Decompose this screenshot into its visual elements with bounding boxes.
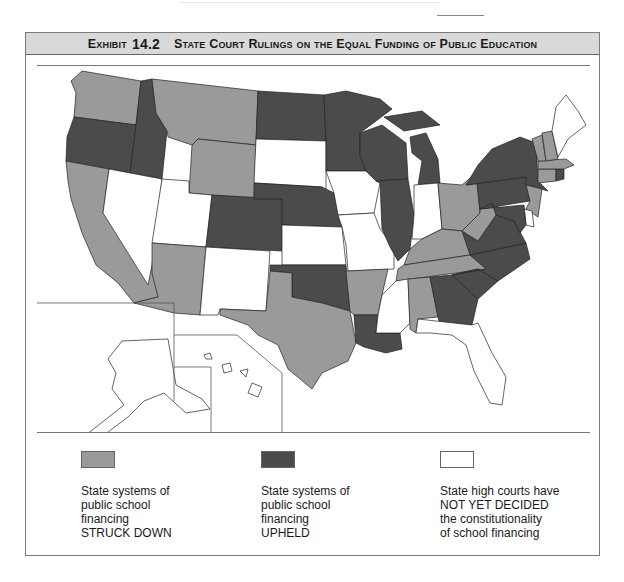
legend-text: of school financing	[440, 526, 610, 540]
legend-item-upheld: State systems of public school financing…	[261, 451, 431, 540]
hawaii-inset-border	[174, 335, 282, 433]
state-ct	[538, 169, 556, 183]
us-map	[26, 33, 601, 433]
state-ak	[86, 339, 210, 433]
state-wy	[189, 139, 256, 199]
state-mt	[152, 79, 258, 145]
legend-text: State systems of	[261, 484, 431, 498]
state-nm	[200, 247, 270, 315]
page-rule	[437, 15, 484, 16]
state-in	[412, 183, 442, 239]
legend-text: STRUCK DOWN	[81, 526, 251, 540]
exhibit-frame: Exhibit 14.2 State Court Rulings on the …	[25, 32, 600, 556]
legend-text: public school	[81, 498, 251, 512]
legend-text: NOT YET DECIDED	[440, 498, 610, 512]
state-ri	[556, 169, 564, 181]
legend-swatch-upheld	[261, 451, 295, 468]
legend-text: financing	[261, 512, 431, 526]
legend-item-not-decided: State high courts have NOT YET DECIDED t…	[440, 451, 610, 540]
state-sd	[254, 139, 326, 191]
legend-item-struck-down: State systems of public school financing…	[81, 451, 251, 540]
running-head	[180, 2, 440, 7]
legend-swatch-not-decided	[440, 451, 474, 468]
state-me	[552, 95, 586, 157]
map-bottom-rule	[37, 432, 590, 433]
state-ks	[282, 225, 346, 265]
legend-text: public school	[261, 498, 431, 512]
state-hi	[204, 353, 262, 397]
state-nd	[256, 91, 326, 141]
state-wa	[71, 71, 141, 125]
legend-text: UPHELD	[261, 526, 431, 540]
legend-text: State systems of	[81, 484, 251, 498]
state-wi	[360, 125, 408, 181]
state-fl	[416, 319, 506, 405]
legend-text: State high courts have	[440, 484, 610, 498]
state-co	[206, 195, 284, 251]
legend-swatch-struck-down	[81, 451, 115, 468]
legend-text: financing	[81, 512, 251, 526]
legend-text: the constitutionality	[440, 512, 610, 526]
